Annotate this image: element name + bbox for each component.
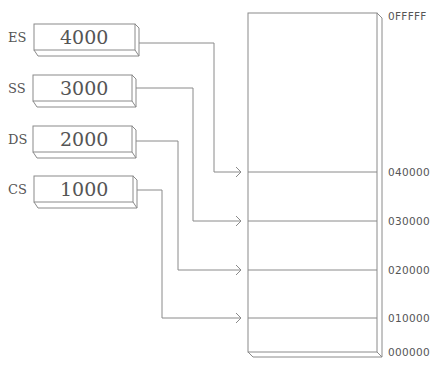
register-ds: DS 2000	[8, 126, 136, 158]
connector-cs	[137, 190, 241, 323]
register-value: 1000	[60, 178, 108, 200]
address-label: 020000	[388, 264, 430, 276]
connector-ss	[136, 88, 241, 226]
connector-es	[139, 43, 241, 177]
register-value: 2000	[60, 128, 108, 150]
connector-ds	[136, 141, 241, 275]
register-value: 3000	[60, 77, 108, 99]
register-value: 4000	[60, 26, 108, 48]
register-cs: CS 1000	[8, 176, 137, 208]
register-name: SS	[8, 81, 26, 96]
address-label: 030000	[388, 215, 430, 227]
segment-memory-diagram: 0FFFFF 040000 030000 020000 010000 00000…	[0, 0, 438, 369]
register-name: DS	[8, 132, 27, 147]
register-ss: SS 3000	[8, 75, 136, 107]
address-label: 010000	[388, 312, 430, 324]
address-bottom: 000000	[388, 346, 430, 358]
memory-block	[248, 13, 382, 357]
register-name: CS	[8, 182, 27, 197]
register-name: ES	[8, 30, 26, 45]
register-es: ES 4000	[8, 24, 139, 56]
address-label: 040000	[388, 166, 430, 178]
address-top: 0FFFFF	[388, 10, 427, 22]
